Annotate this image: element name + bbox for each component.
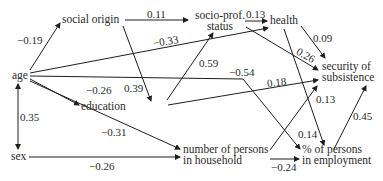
node-health: health — [270, 15, 298, 26]
node-security-line2: subsistence — [322, 72, 374, 83]
node-education: education — [81, 101, 126, 112]
edge-education-security — [168, 80, 318, 105]
node-percent-persons-in-employment: % of persons in employment — [302, 144, 371, 166]
coef-age-employment: −0.54 — [229, 67, 254, 78]
node-socio-prof-status: socio-prof. status — [192, 10, 248, 32]
edge-age-social-origin — [30, 23, 60, 70]
coef-age-household: −0.31 — [101, 127, 126, 138]
coef-household-security: 0.13 — [316, 94, 335, 105]
coef-employment-security: 0.45 — [353, 111, 372, 122]
coef-sex-household: −0.26 — [89, 161, 114, 172]
path-diagram: social origin socio-prof. status health … — [0, 0, 383, 181]
coef-age-sex: 0.35 — [20, 112, 39, 123]
node-sex: sex — [11, 151, 26, 162]
coef-age-education: −0.26 — [86, 85, 111, 96]
coef-sps-health: 0.13 — [246, 9, 265, 20]
coef-health-employment: 0.14 — [298, 129, 317, 140]
coef-education-security: 0.18 — [266, 76, 286, 89]
coef-age-social-origin: −0.19 — [17, 35, 42, 46]
node-household-line2: in household — [183, 155, 269, 166]
node-social-origin: social origin — [62, 14, 119, 25]
coef-social-origin-sps: 0.11 — [147, 9, 166, 20]
coef-education-sps: 0.59 — [199, 58, 218, 69]
node-employment-line2: in employment — [302, 155, 371, 166]
coef-health-security: 0.09 — [313, 33, 332, 44]
node-security-of-subsistence: security of subsistence — [322, 61, 374, 83]
coef-social-origin-education: 0.39 — [124, 83, 143, 94]
node-age: age — [12, 70, 28, 81]
edge-age-employment — [30, 76, 300, 149]
node-number-of-persons-in-household: number of persons in household — [183, 144, 269, 166]
coef-household-employment: −0.24 — [271, 162, 296, 173]
node-socio-prof-status-line2: status — [192, 21, 248, 32]
